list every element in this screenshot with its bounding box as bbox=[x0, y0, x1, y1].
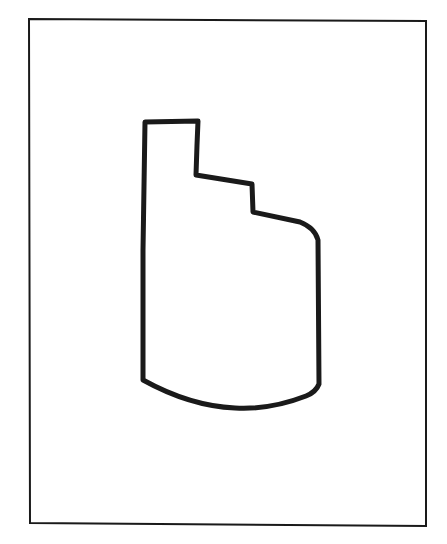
background bbox=[0, 0, 447, 544]
drawing-canvas bbox=[0, 0, 447, 544]
